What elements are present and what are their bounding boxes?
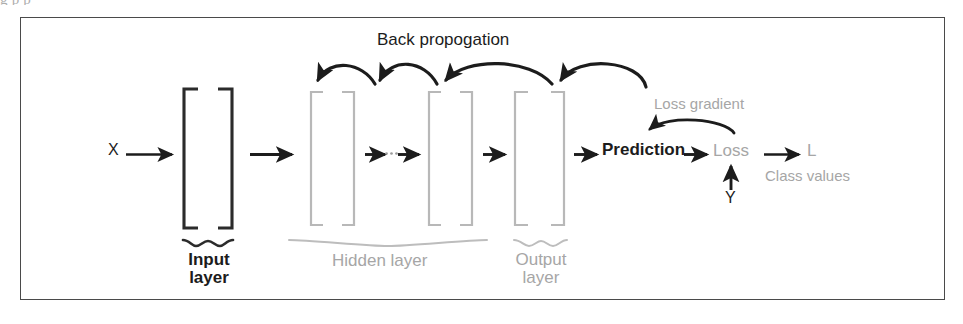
- label-output-layer: Output layer: [511, 251, 571, 287]
- loss-gradient-arc: [650, 120, 734, 133]
- label-input-layer: Input layer: [183, 251, 235, 287]
- backprop-arc-4: [561, 64, 646, 87]
- forward-pass-arrows: [126, 152, 799, 190]
- label-loss: Loss: [713, 142, 749, 160]
- label-input-layer-line2: layer: [183, 269, 235, 287]
- label-target-y: Y: [725, 190, 736, 207]
- backprop-arc-2: [380, 64, 437, 84]
- label-input-x: X: [108, 142, 119, 159]
- label-input-layer-line1: Input: [183, 251, 235, 269]
- backpropagation-arcs: [318, 64, 646, 87]
- layer-underbraces: [183, 240, 567, 246]
- brace-hidden-layer: [289, 240, 487, 246]
- backprop-arc-3: [446, 64, 552, 84]
- hidden-layer-ellipsis: [385, 152, 398, 155]
- brace-output-layer: [514, 240, 567, 246]
- backprop-arc-1: [318, 65, 375, 84]
- label-loss-output: L: [807, 142, 816, 160]
- figure-root: g p p: [0, 0, 963, 324]
- brace-input-layer: [183, 240, 233, 246]
- hidden-layer-last-brackets: [429, 92, 472, 225]
- label-output-layer-line1: Output: [511, 251, 571, 269]
- output-layer-brackets: [515, 92, 564, 225]
- label-prediction: Prediction: [602, 141, 685, 159]
- hidden-layer-first-brackets: [311, 92, 354, 225]
- label-loss-gradient: Loss gradient: [654, 96, 744, 112]
- label-hidden-layer: Hidden layer: [332, 252, 427, 270]
- label-back-propagation: Back propogation: [377, 31, 509, 49]
- label-output-layer-line2: layer: [511, 269, 571, 287]
- label-class-values: Class values: [765, 168, 850, 184]
- input-layer-brackets: [184, 89, 232, 228]
